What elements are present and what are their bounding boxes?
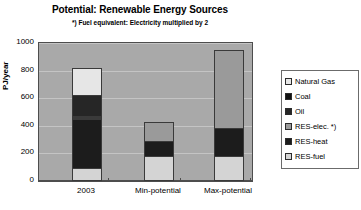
x-tick-mark xyxy=(250,178,251,182)
chart-container: Potential: Renewable Energy Sources *) F… xyxy=(0,0,361,210)
legend-label: Coal xyxy=(295,92,310,101)
bar-segment xyxy=(145,156,173,180)
chart-subtitle: *) Fuel equivalent: Electricity multipli… xyxy=(0,19,280,26)
legend-item: Coal xyxy=(285,89,355,104)
bar-segment xyxy=(215,128,243,155)
x-tick-mark xyxy=(180,178,181,182)
legend-label: Natural Gas xyxy=(295,77,335,86)
bar-segment xyxy=(215,51,243,128)
legend-item: RES-elec. *) xyxy=(285,119,355,134)
y-tick-label: 1000 xyxy=(6,38,34,46)
bar-segment xyxy=(73,168,101,180)
y-tick-label: 400 xyxy=(6,121,34,129)
legend-label: Oil xyxy=(295,107,304,116)
chart-legend: Natural GasCoalOilRES-elec. *)RES-heatRE… xyxy=(281,70,359,169)
bar-segment xyxy=(73,95,101,116)
plot-area xyxy=(38,42,253,182)
legend-swatch xyxy=(285,78,292,85)
x-tick-label: Min-potential xyxy=(122,186,194,195)
bar-segment xyxy=(145,123,173,142)
legend-swatch xyxy=(285,153,292,160)
legend-label: RES-heat xyxy=(295,137,328,146)
legend-swatch xyxy=(285,108,292,115)
x-tick-label: 2003 xyxy=(50,186,122,195)
x-tick-mark xyxy=(108,178,109,182)
y-tick-label: 600 xyxy=(6,93,34,101)
bar-segment xyxy=(73,119,101,168)
bar-segment xyxy=(215,156,243,180)
y-tick-label: 0 xyxy=(6,176,34,184)
legend-item: RES-fuel xyxy=(285,149,355,164)
legend-swatch xyxy=(285,138,292,145)
y-tick-label: 200 xyxy=(6,148,34,156)
chart-title: Potential: Renewable Energy Sources xyxy=(0,4,280,15)
legend-label: RES-elec. *) xyxy=(295,122,336,131)
bar-segment xyxy=(145,141,173,156)
bar-2003 xyxy=(72,68,102,181)
legend-item: Oil xyxy=(285,104,355,119)
y-tick-label: 800 xyxy=(6,66,34,74)
legend-item: Natural Gas xyxy=(285,74,355,89)
bar-segment xyxy=(73,69,101,95)
y-axis-tick-labels: 10008006004002000 xyxy=(4,0,34,210)
legend-swatch xyxy=(285,93,292,100)
x-tick-label: Max-potential xyxy=(192,186,264,195)
legend-item: RES-heat xyxy=(285,134,355,149)
bar-max-potential xyxy=(214,50,244,181)
gridline xyxy=(39,43,252,44)
legend-label: RES-fuel xyxy=(295,152,325,161)
legend-swatch xyxy=(285,123,292,130)
bar-min-potential xyxy=(144,122,174,181)
